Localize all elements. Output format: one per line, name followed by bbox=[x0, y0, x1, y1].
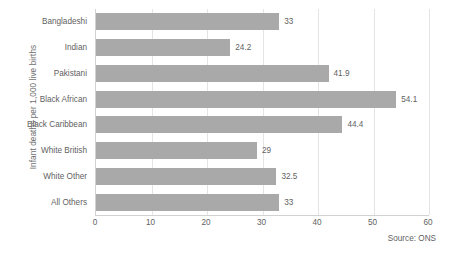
category-label: Bangladeshi bbox=[22, 9, 91, 35]
bar-value-label: 24.2 bbox=[235, 43, 251, 52]
x-tick-label: 20 bbox=[201, 218, 210, 227]
bar-row: 29 bbox=[96, 138, 429, 164]
x-axis-tick-labels: 0102030405060 bbox=[95, 218, 428, 232]
category-label: Black African bbox=[22, 86, 91, 112]
bar bbox=[96, 142, 257, 159]
x-tick-label: 0 bbox=[93, 218, 98, 227]
bar bbox=[96, 194, 279, 211]
bar bbox=[96, 168, 276, 185]
category-label: Black Caribbean bbox=[22, 112, 91, 138]
x-tick-label: 50 bbox=[368, 218, 377, 227]
bar-series: 3324.241.954.144.42932.533 bbox=[96, 9, 429, 215]
category-label: White British bbox=[22, 138, 91, 164]
bar-value-label: 32.5 bbox=[281, 172, 297, 181]
bar-row: 33 bbox=[96, 189, 429, 215]
bar-row: 32.5 bbox=[96, 164, 429, 190]
bar-row: 41.9 bbox=[96, 61, 429, 87]
bar bbox=[96, 65, 329, 82]
bar bbox=[96, 39, 230, 56]
bar-row: 33 bbox=[96, 9, 429, 35]
category-label: Indian bbox=[22, 35, 91, 61]
plot-area: 3324.241.954.144.42932.533 bbox=[95, 9, 429, 216]
bar-row: 44.4 bbox=[96, 112, 429, 138]
source-note: Source: ONS bbox=[388, 234, 436, 243]
bar-value-label: 44.4 bbox=[347, 120, 363, 129]
x-tick-label: 30 bbox=[257, 218, 266, 227]
bar-row: 54.1 bbox=[96, 86, 429, 112]
category-axis-labels: BangladeshiIndianPakistaniBlack AfricanB… bbox=[22, 9, 91, 215]
bar-chart: Infant deaths per 1,000 live births Bang… bbox=[0, 0, 452, 256]
category-label: White Other bbox=[22, 164, 91, 190]
bar-value-label: 41.9 bbox=[334, 69, 350, 78]
x-tick-label: 60 bbox=[423, 218, 432, 227]
bar-value-label: 33 bbox=[284, 17, 293, 26]
bar bbox=[96, 13, 279, 30]
bar-value-label: 33 bbox=[284, 198, 293, 207]
bar bbox=[96, 91, 396, 108]
bar-value-label: 29 bbox=[262, 146, 271, 155]
bar bbox=[96, 116, 342, 133]
x-tick-label: 10 bbox=[146, 218, 155, 227]
bar-row: 24.2 bbox=[96, 35, 429, 61]
bar-value-label: 54.1 bbox=[401, 95, 417, 104]
category-label: All Others bbox=[22, 189, 91, 215]
x-tick-label: 40 bbox=[312, 218, 321, 227]
gridline bbox=[429, 9, 430, 215]
category-label: Pakistani bbox=[22, 61, 91, 87]
